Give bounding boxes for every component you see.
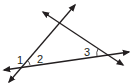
geometry-diagram: 1 2 3: [0, 0, 138, 83]
line-b: [43, 12, 123, 65]
angle-2-arc: [27, 60, 30, 65]
angle-label-3: 3: [84, 46, 90, 58]
angle-label-2: 2: [37, 53, 43, 65]
angle-label-1: 1: [17, 54, 23, 66]
angle-3-arc: [97, 49, 98, 56]
line-a: [9, 5, 75, 82]
